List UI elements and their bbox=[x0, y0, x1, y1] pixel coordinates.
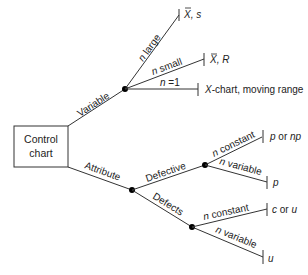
outcome-xbar-s: X, s bbox=[183, 8, 201, 20]
label-defective-n-constant: n constant bbox=[210, 129, 256, 159]
label-defects: Defects bbox=[151, 190, 186, 217]
control-chart-label-line2: chart bbox=[29, 147, 52, 159]
label-n-large: n large bbox=[136, 32, 163, 64]
svg-text:X, s: X, s bbox=[183, 9, 201, 20]
label-defective: Defective bbox=[144, 160, 187, 184]
outcome-xbar-r: X, R bbox=[209, 54, 229, 65]
svg-text:X, R: X, R bbox=[209, 54, 229, 65]
outcome-x-chart-moving-range: X-chart, moving range bbox=[204, 84, 304, 95]
label-n-small: n small bbox=[150, 56, 184, 77]
control-chart-label-line1: Control bbox=[24, 133, 58, 145]
outcome-p-or-np: p or np bbox=[269, 131, 302, 142]
label-variable: Variable bbox=[75, 90, 112, 119]
outcome-u: u bbox=[268, 253, 274, 264]
outcome-c-or-u: c or u bbox=[272, 204, 297, 215]
control-chart-decision-tree: Control chart Variable n large X, s n sm… bbox=[0, 0, 308, 275]
label-defective-n-variable: n variable bbox=[218, 155, 263, 177]
label-n-equals-1: n =1 bbox=[160, 77, 180, 88]
outcome-p: p bbox=[272, 177, 279, 188]
